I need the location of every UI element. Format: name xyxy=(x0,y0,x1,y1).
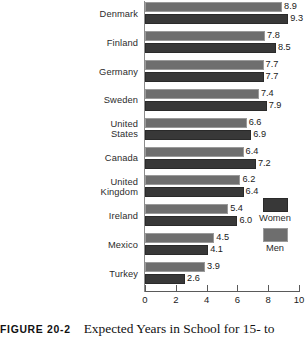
category-label: UnitedKingdom xyxy=(0,177,138,198)
bar-men: 7.8 xyxy=(145,31,265,41)
category-label-line: Canada xyxy=(0,153,138,163)
x-axis-tick xyxy=(145,285,146,292)
x-axis-tick xyxy=(299,285,300,292)
bar-men: 7.4 xyxy=(145,89,259,99)
category-bar-pair: 6.26.4 xyxy=(145,175,244,197)
category-label-line: United xyxy=(0,177,138,187)
x-axis-tick-label: 6 xyxy=(235,295,240,305)
bar-women: 7.2 xyxy=(145,159,256,169)
bar-women: 6.0 xyxy=(145,216,237,226)
category-bar-pair: 7.77.7 xyxy=(145,60,264,82)
category-bar-pair: 7.88.5 xyxy=(145,31,276,53)
category-label: Germany xyxy=(0,67,138,77)
bar-value-label: 7.2 xyxy=(258,159,271,168)
bar-men: 7.7 xyxy=(145,60,264,70)
category-bar-pair: 4.54.1 xyxy=(145,233,214,255)
category-label: UnitedStates xyxy=(0,119,138,140)
category-label-line: Kingdom xyxy=(0,187,138,197)
x-axis-tick xyxy=(207,285,208,292)
bar-women: 6.4 xyxy=(145,187,244,197)
bar-value-label: 7.4 xyxy=(261,89,274,98)
x-axis-tick xyxy=(268,285,269,292)
bar-men: 6.2 xyxy=(145,175,240,185)
x-axis-tick-label: 4 xyxy=(204,295,209,305)
figure-caption-tag: FIGURE 20-2 xyxy=(0,324,71,335)
x-axis-line xyxy=(145,291,299,292)
category-bar-pair: 5.46.0 xyxy=(145,204,237,226)
bar-value-label: 5.4 xyxy=(230,205,243,214)
category-label-line: Mexico xyxy=(0,240,138,250)
legend-entry: Men xyxy=(249,228,301,254)
category-label-line: United xyxy=(0,119,138,129)
category-label: Mexico xyxy=(0,240,138,250)
bar-value-label: 6.9 xyxy=(253,130,266,139)
bar-women: 7.9 xyxy=(145,101,267,111)
x-axis-tick-label: 0 xyxy=(142,295,147,305)
category-label-line: Germany xyxy=(0,67,138,77)
category-label: Finland xyxy=(0,38,138,48)
category-label-line: Denmark xyxy=(0,9,138,19)
figure-caption-text: Expected Years in School for 15- to xyxy=(84,321,275,336)
bar-men: 6.4 xyxy=(145,147,244,157)
bar-men: 4.5 xyxy=(145,233,214,243)
bar-men: 8.9 xyxy=(145,2,282,12)
bar-value-label: 7.7 xyxy=(266,72,279,81)
bar-men: 5.4 xyxy=(145,204,228,214)
chart-legend: WomenMen xyxy=(249,198,301,258)
x-axis-tick-label: 2 xyxy=(173,295,178,305)
legend-label: Women xyxy=(249,213,301,224)
bar-value-label: 6.2 xyxy=(242,176,255,185)
category-label: Denmark xyxy=(0,9,138,19)
bar-women: 9.3 xyxy=(145,14,288,24)
category-label: Turkey xyxy=(0,269,138,279)
category-label-line: Finland xyxy=(0,38,138,48)
bar-value-label: 8.5 xyxy=(278,43,291,52)
bar-value-label: 8.9 xyxy=(284,2,297,11)
bar-women: 6.9 xyxy=(145,130,251,140)
x-axis-tick-label: 8 xyxy=(266,295,271,305)
bar-value-label: 6.6 xyxy=(249,118,262,127)
category-label: Canada xyxy=(0,153,138,163)
category-label: Sweden xyxy=(0,95,138,105)
bar-value-label: 7.9 xyxy=(269,101,282,110)
legend-swatch xyxy=(263,198,288,212)
bar-value-label: 6.4 xyxy=(246,147,259,156)
x-axis-tick xyxy=(237,285,238,292)
category-label-line: States xyxy=(0,129,138,139)
x-axis-tick xyxy=(176,285,177,292)
bar-value-label: 7.8 xyxy=(267,31,280,40)
category-bar-pair: 6.66.9 xyxy=(145,118,251,140)
legend-label: Men xyxy=(249,243,301,254)
category-bar-pair: 8.99.3 xyxy=(145,2,288,24)
bar-value-label: 9.3 xyxy=(290,14,303,23)
legend-swatch xyxy=(263,228,288,242)
bar-value-label: 2.6 xyxy=(187,274,200,283)
category-bar-pair: 7.47.9 xyxy=(145,89,267,111)
bar-value-label: 4.5 xyxy=(216,233,229,242)
figure-container: Denmark8.99.3Finland7.88.5Germany7.77.7S… xyxy=(0,0,307,341)
legend-entry: Women xyxy=(249,198,301,224)
category-label-line: Turkey xyxy=(0,269,138,279)
category-bar-pair: 3.92.6 xyxy=(145,262,205,284)
bar-women: 7.7 xyxy=(145,72,264,82)
category-label-line: Ireland xyxy=(0,211,138,221)
category-label: Ireland xyxy=(0,211,138,221)
category-label-line: Sweden xyxy=(0,95,138,105)
bar-value-label: 4.1 xyxy=(210,245,223,254)
figure-caption: FIGURE 20-2Expected Years in School for … xyxy=(0,319,307,341)
bar-women: 8.5 xyxy=(145,43,276,53)
bar-men: 3.9 xyxy=(145,262,205,272)
bar-men: 6.6 xyxy=(145,118,247,128)
bar-women: 2.6 xyxy=(145,274,185,284)
bar-women: 4.1 xyxy=(145,245,208,255)
bar-value-label: 3.9 xyxy=(207,262,220,271)
category-bar-pair: 6.47.2 xyxy=(145,147,256,169)
bar-value-label: 6.4 xyxy=(246,188,259,197)
bar-value-label: 7.7 xyxy=(266,60,279,69)
x-axis-tick-label: 10 xyxy=(294,295,305,305)
